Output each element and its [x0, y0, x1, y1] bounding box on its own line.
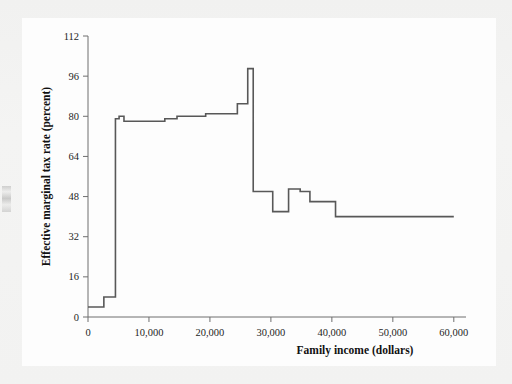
y-tick-label: 80: [69, 111, 80, 122]
x-tick-label: 40,000: [317, 327, 346, 338]
y-axis-tick-labels: 0163248648096112: [64, 31, 80, 323]
x-tick-label: 20,000: [195, 327, 224, 338]
y-tick-label: 48: [69, 191, 80, 202]
x-axis-title: Family income (dollars): [297, 344, 414, 357]
step-chart: 0163248648096112 010,00020,00030,00040,0…: [0, 0, 512, 384]
y-tick-label: 64: [69, 151, 80, 162]
tax-rate-step-line: [88, 69, 454, 307]
y-tick-label: 96: [69, 71, 80, 82]
y-tick-label: 16: [69, 271, 80, 282]
y-axis-ticks: [83, 36, 88, 317]
x-axis-tick-labels: 010,00020,00030,00040,00050,00060,000: [85, 327, 468, 338]
y-tick-label: 112: [64, 31, 79, 42]
figure-page: 0163248648096112 010,00020,00030,00040,0…: [0, 0, 512, 384]
x-tick-label: 50,000: [378, 327, 407, 338]
x-tick-label: 60,000: [439, 327, 468, 338]
x-tick-label: 0: [85, 327, 90, 338]
y-axis-title: Effective marginal tax rate (percent): [40, 87, 53, 266]
chart-plot-area: 0163248648096112 010,00020,00030,00040,0…: [0, 0, 512, 384]
x-tick-label: 10,000: [135, 327, 164, 338]
y-tick-label: 0: [74, 312, 79, 323]
x-axis-ticks: [88, 317, 454, 322]
x-tick-label: 30,000: [256, 327, 285, 338]
y-tick-label: 32: [69, 231, 80, 242]
